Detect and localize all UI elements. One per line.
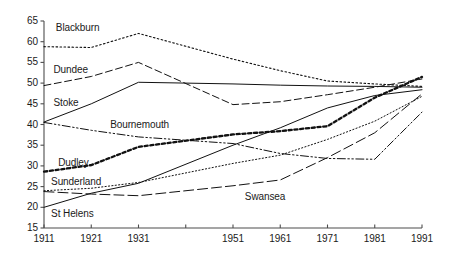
series-label-stoke: Stoke — [53, 97, 78, 108]
y-axis-tick-label: 20 — [16, 201, 38, 212]
series-line-blackburn — [44, 33, 422, 86]
x-axis-tick-label: 1991 — [410, 233, 434, 244]
series-label-dundee: Dundee — [53, 64, 87, 75]
x-axis-tick-label: 1981 — [363, 233, 387, 244]
series-line-st-helens — [44, 90, 422, 208]
series-label-dudley: Dudley — [58, 157, 89, 168]
y-axis-tick-label: 15 — [16, 222, 38, 233]
y-axis-tick-label: 50 — [16, 77, 38, 88]
y-axis-tick-label: 30 — [16, 160, 38, 171]
y-axis-tick-label: 45 — [16, 98, 38, 109]
x-axis-tick-label: 1921 — [79, 233, 103, 244]
chart-plot-area — [0, 0, 452, 260]
series-label-st-helens: St Helens — [51, 208, 93, 219]
y-axis-tick-label: 25 — [16, 181, 38, 192]
series-label-swansea: Swansea — [245, 191, 285, 202]
series-label-bournemouth: Bournemouth — [110, 119, 169, 130]
y-axis-tick-label: 65 — [16, 15, 38, 26]
line-chart: 1520253035404550556065191119211931195119… — [0, 0, 452, 260]
x-axis-tick-label: 1931 — [127, 233, 151, 244]
series-line-dudley — [44, 77, 422, 172]
series-label-blackburn: Blackburn — [56, 22, 100, 33]
series-line-bournemouth — [44, 112, 422, 159]
x-axis-tick-label: 1951 — [221, 233, 245, 244]
y-axis-tick-label: 55 — [16, 56, 38, 67]
x-axis-tick-label: 1961 — [268, 233, 292, 244]
series-label-sunderland: Sunderland — [51, 176, 101, 187]
y-axis-tick-label: 40 — [16, 119, 38, 130]
y-axis-tick-label: 35 — [16, 139, 38, 150]
y-axis-tick-label: 60 — [16, 36, 38, 47]
x-axis-tick-label: 1911 — [32, 233, 56, 244]
x-axis-tick-label: 1971 — [316, 233, 340, 244]
